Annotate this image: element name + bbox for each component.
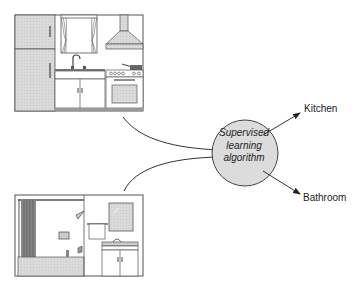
algorithm-label-line3: algorithm [211, 152, 277, 165]
bathroom-output-arrow [263, 171, 300, 194]
towel-rack-icon [87, 224, 108, 239]
window-icon [61, 15, 97, 53]
bathroom-output-label: Bathroom [303, 192, 346, 203]
kitchen-input-arrow [123, 117, 219, 150]
diagram-canvas [0, 0, 360, 284]
mirror-icon [109, 203, 133, 231]
vanity-icon [102, 239, 138, 276]
bathroom-input-arrow [124, 157, 219, 191]
refrigerator-icon [15, 15, 55, 111]
bathroom-image [15, 195, 143, 276]
algorithm-label-line2: learning [211, 140, 277, 153]
kitchen-output-label: Kitchen [304, 103, 337, 114]
stove-icon [106, 64, 143, 108]
floor-strip [55, 108, 143, 111]
soap-dish-icon [59, 232, 69, 239]
algorithm-label: Supervised learning algorithm [211, 127, 277, 165]
bottle-icon [66, 250, 69, 257]
algorithm-label-line1: Supervised [211, 127, 277, 140]
kitchen-image [15, 15, 143, 111]
cabinet-icon [55, 79, 105, 108]
bathtub-icon [18, 257, 84, 276]
